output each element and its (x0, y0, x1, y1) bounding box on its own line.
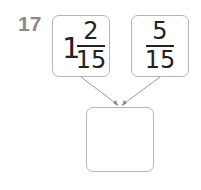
arrowhead-icon (113, 100, 118, 106)
answer-box[interactable] (86, 107, 154, 172)
arrowhead-icon (122, 100, 127, 106)
